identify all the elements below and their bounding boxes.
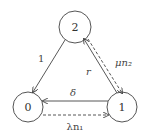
edge-2-to-0: 1 [33, 40, 65, 92]
edge-0-to-1-label: λn₁ [67, 121, 84, 132]
edge-1-to-2: r [84, 39, 117, 93]
edge-1-to-2-label: r [86, 66, 92, 77]
node-2: 2 [59, 11, 91, 43]
node-0-label: 0 [25, 101, 32, 114]
node-1-label: 1 [119, 101, 126, 114]
edge-2-to-0-label: 1 [38, 53, 44, 64]
edge-0-to-1: λn₁ [43, 115, 108, 132]
node-2-label: 2 [72, 21, 79, 34]
edge-2-to-1-label: μn₂ [115, 57, 132, 68]
edge-1-to-0: δ [43, 87, 108, 101]
node-0: 0 [13, 92, 43, 122]
node-1: 1 [107, 92, 137, 122]
markov-chain-diagram: 2 0 1 1 r μn₂ δ [0, 0, 150, 138]
edge-1-to-0-label: δ [70, 87, 76, 98]
edge-2-to-1: μn₂ [88, 39, 132, 93]
diagram-svg: 2 0 1 1 r μn₂ δ [0, 0, 150, 138]
